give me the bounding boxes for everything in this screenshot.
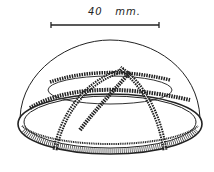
medusa-drawing — [0, 0, 214, 172]
medusa-illustration: 40 mm. — [0, 0, 214, 172]
radial-canals — [30, 68, 190, 150]
bell-margin-outer — [18, 94, 202, 154]
scale-bar — [51, 22, 159, 28]
tentacle-fringe — [22, 126, 198, 151]
bell-outline — [20, 40, 200, 118]
scale-bar-label: 40 mm. — [88, 6, 141, 17]
